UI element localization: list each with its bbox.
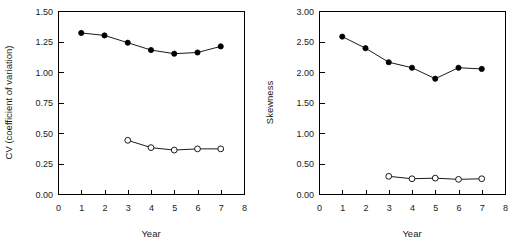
chart-panel-skewness: 0.000.501.001.502.002.503.00012345678Yea…	[261, 0, 521, 241]
y-tick-label: 1.50	[35, 7, 53, 17]
data-point-filled-circles	[386, 60, 391, 65]
data-point-open-circles	[125, 137, 131, 143]
y-tick-label: 0.25	[35, 159, 53, 169]
cv-chart-svg: 0.000.250.500.751.001.251.50012345678Yea…	[0, 0, 260, 241]
data-point-filled-circles	[172, 51, 177, 56]
x-tick-label: 2	[102, 203, 107, 213]
x-tick-label: 3	[126, 203, 131, 213]
y-tick-label: 2.50	[296, 37, 314, 47]
x-tick-label: 1	[79, 203, 84, 213]
y-tick-label: 0.00	[296, 190, 314, 200]
y-tick-label: 0.00	[35, 190, 53, 200]
data-point-open-circles	[171, 147, 177, 153]
x-tick-label: 6	[456, 203, 461, 213]
data-point-open-circles	[479, 176, 485, 182]
data-point-filled-circles	[433, 76, 438, 81]
y-axis-title: CV (coefficient of variation)	[3, 46, 14, 160]
x-tick-label: 2	[363, 203, 368, 213]
y-tick-label: 0.75	[35, 98, 53, 108]
x-tick-label: 8	[242, 203, 247, 213]
y-tick-label: 1.00	[35, 68, 53, 78]
x-tick-label: 7	[219, 203, 224, 213]
y-tick-label: 0.50	[296, 159, 314, 169]
data-point-open-circles	[386, 173, 392, 179]
x-tick-label: 5	[172, 203, 177, 213]
x-tick-label: 8	[503, 203, 508, 213]
x-tick-label: 0	[317, 203, 322, 213]
y-tick-label: 1.50	[296, 98, 314, 108]
skewness-chart-svg: 0.000.501.001.502.002.503.00012345678Yea…	[261, 0, 521, 241]
data-point-filled-circles	[340, 34, 345, 39]
x-tick-label: 6	[195, 203, 200, 213]
x-axis-title: Year	[141, 228, 160, 239]
data-point-open-circles	[195, 146, 201, 152]
data-point-filled-circles	[125, 40, 130, 45]
x-axis-title: Year	[402, 228, 421, 239]
chart-panel-cv: 0.000.250.500.751.001.251.50012345678Yea…	[0, 0, 260, 241]
data-point-filled-circles	[195, 50, 200, 55]
data-point-filled-circles	[456, 65, 461, 70]
data-point-filled-circles	[479, 66, 484, 71]
data-point-filled-circles	[363, 46, 368, 51]
series-line-filled-circles	[342, 37, 482, 79]
x-tick-label: 0	[56, 203, 61, 213]
y-tick-label: 2.00	[296, 68, 314, 78]
data-point-open-circles	[218, 146, 224, 152]
x-tick-label: 7	[480, 203, 485, 213]
data-point-filled-circles	[409, 65, 414, 70]
data-point-filled-circles	[79, 30, 84, 35]
data-point-open-circles	[148, 145, 154, 151]
data-point-open-circles	[456, 176, 462, 182]
x-tick-label: 3	[387, 203, 392, 213]
data-point-open-circles	[432, 175, 438, 181]
y-axis-title: Skewness	[264, 81, 275, 125]
data-point-filled-circles	[218, 44, 223, 49]
data-point-filled-circles	[102, 33, 107, 38]
y-tick-label: 3.00	[296, 7, 314, 17]
x-tick-label: 4	[149, 203, 154, 213]
x-tick-label: 1	[340, 203, 345, 213]
data-point-filled-circles	[148, 47, 153, 52]
y-tick-label: 1.00	[296, 129, 314, 139]
y-tick-label: 1.25	[35, 37, 53, 47]
x-tick-label: 4	[410, 203, 415, 213]
data-point-open-circles	[409, 176, 415, 182]
axis-frame	[59, 12, 245, 195]
figure-canvas: 0.000.250.500.751.001.251.50012345678Yea…	[0, 0, 521, 241]
y-tick-label: 0.50	[35, 129, 53, 139]
x-tick-label: 5	[433, 203, 438, 213]
